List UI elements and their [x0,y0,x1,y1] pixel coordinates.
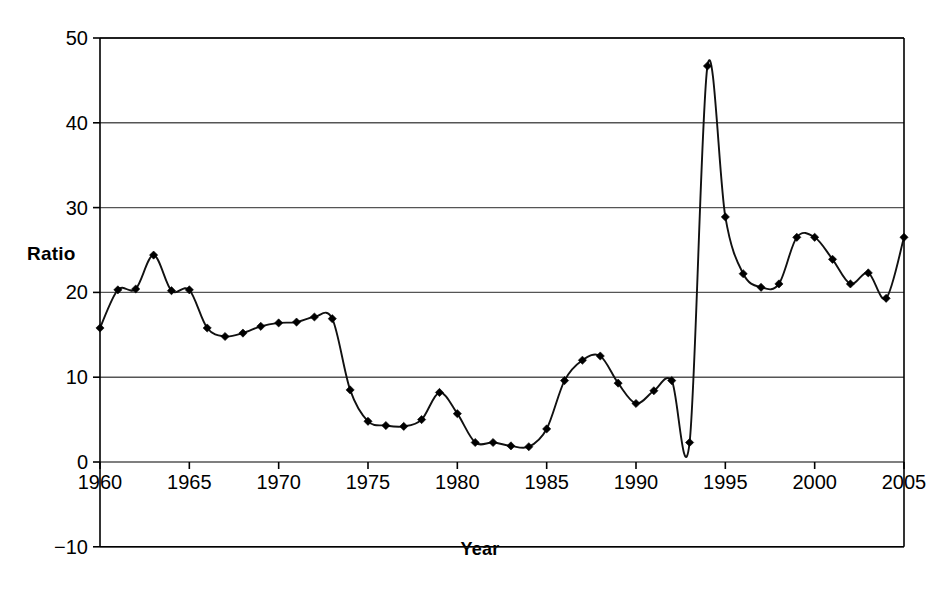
data-point-1995 [721,213,729,221]
x-tick-label-2000: 2000 [792,471,837,493]
data-point-1997 [757,283,765,291]
data-point-1984 [525,443,533,451]
x-tick-label-1985: 1985 [524,471,569,493]
data-point-1982 [489,438,497,446]
y-tick-label-30: 30 [66,197,88,219]
y-tick-label-0: 0 [77,451,88,473]
x-tick-label-1980: 1980 [435,471,480,493]
y-tick-label-40: 40 [66,112,88,134]
data-point-1983 [507,442,515,450]
x-tick-label-1975: 1975 [346,471,391,493]
data-point-1967 [221,332,229,340]
x-tick-label-1960: 1960 [78,471,123,493]
x-axis-tick-labels: 1960196519701975198019851990199520002005 [78,471,927,493]
data-point-1970 [275,319,283,327]
series-markers-ratio [96,62,908,451]
chart-container: Ratio Year −1001020304050 19601965197019… [0,0,946,591]
x-tick-label-1970: 1970 [256,471,301,493]
series-path-ratio [100,60,904,457]
data-point-1996 [739,270,747,278]
data-point-1976 [382,421,390,429]
data-point-1985 [543,425,551,433]
data-point-1960 [96,324,104,332]
x-tick-label-1995: 1995 [703,471,748,493]
data-point-1974 [346,386,354,394]
x-axis-tick-marks [100,462,904,469]
x-tick-label-1965: 1965 [167,471,212,493]
grid-lines [100,38,904,547]
line-chart-plot: −1001020304050 1960196519701975198019851… [0,0,946,591]
data-point-1971 [292,318,300,326]
series-line-ratio [100,60,904,457]
y-tick-label-50: 50 [66,27,88,49]
data-point-1969 [257,322,265,330]
data-point-1990 [632,399,640,407]
data-point-1972 [310,313,318,321]
data-point-1977 [400,422,408,430]
data-point-1993 [686,438,694,446]
y-tick-label-20: 20 [66,281,88,303]
data-point-2005 [900,233,908,241]
data-point-1968 [239,329,247,337]
y-tick-label--10: −10 [54,536,88,558]
x-tick-label-1990: 1990 [614,471,659,493]
data-point-2004 [882,294,890,302]
y-tick-label-10: 10 [66,366,88,388]
x-tick-label-2005: 2005 [882,471,927,493]
